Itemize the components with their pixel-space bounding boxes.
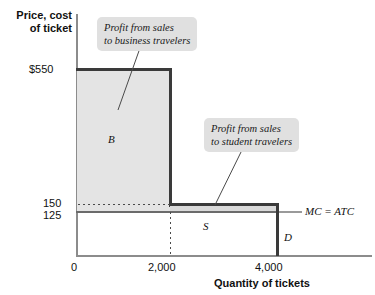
callout-student-travelers: Profit from sales to student travelers [204, 118, 299, 152]
callout-business-travelers: Profit from sales to business travelers [97, 17, 197, 51]
callout-student-line1: Profit from sales [211, 123, 281, 134]
callout-student-line2: to student travelers [211, 136, 292, 147]
callout-business-line2: to business travelers [104, 35, 190, 46]
callout-business-line1: Profit from sales [104, 22, 174, 33]
chart-canvas: Price, cost of ticket Quantity of ticket… [0, 0, 375, 295]
